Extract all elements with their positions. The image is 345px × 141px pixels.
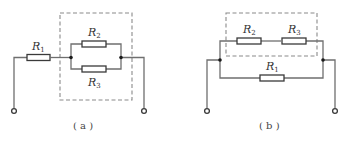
terminal-a-right xyxy=(142,109,147,114)
wire-a-right-branch xyxy=(106,44,121,69)
resistor-a-r1 xyxy=(27,55,50,61)
wire-b-left-lead xyxy=(207,60,220,108)
label-b-r3: R3 xyxy=(287,23,301,37)
terminal-b-left xyxy=(205,109,210,114)
dashed-box-b xyxy=(226,13,317,56)
circuit-figure: R1 R2 R3 ( a ) R2 R3 xyxy=(0,0,345,141)
node-a-left xyxy=(69,56,73,60)
label-a-r2: R2 xyxy=(87,26,101,40)
wire-a-left-branch xyxy=(71,44,82,69)
caption-a: ( a ) xyxy=(73,120,93,131)
wire-b-right-lead xyxy=(323,60,335,108)
resistor-a-r3 xyxy=(82,66,106,72)
node-b-right xyxy=(321,58,325,62)
terminal-b-right xyxy=(333,109,338,114)
label-a-r1: R1 xyxy=(31,40,45,54)
wire-a-left xyxy=(14,58,27,109)
node-b-left xyxy=(218,58,222,62)
node-a-right xyxy=(119,56,123,60)
resistor-b-r3 xyxy=(282,38,306,44)
circuit-a: R1 R2 R3 ( a ) xyxy=(12,13,147,131)
resistor-a-r2 xyxy=(82,41,106,47)
terminal-a-left xyxy=(12,109,17,114)
circuit-diagrams-svg: R1 R2 R3 ( a ) R2 R3 xyxy=(0,0,345,141)
label-a-r3: R3 xyxy=(87,76,101,90)
caption-b: ( b ) xyxy=(259,120,280,131)
circuit-b: R2 R3 R1 ( b ) xyxy=(205,13,338,131)
label-b-r2: R2 xyxy=(242,23,256,37)
resistor-b-r2 xyxy=(237,38,261,44)
resistor-b-r1 xyxy=(260,75,284,81)
label-b-r1: R1 xyxy=(265,60,279,74)
